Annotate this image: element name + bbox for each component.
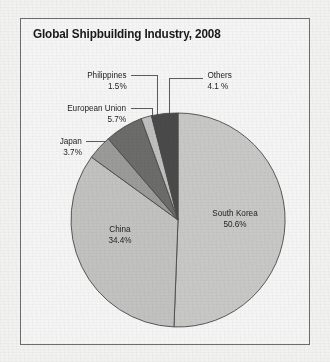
pie-label-china: China 34.4% [91, 224, 149, 245]
pie-label-south-korea: South Korea 50.6% [200, 208, 269, 229]
pie-label-others-name: Others [207, 70, 231, 80]
pie-chart [0, 0, 330, 362]
pie-label-european-union-value: 5.7% [38, 114, 126, 125]
pie-label-south-korea-value: 50.6% [200, 219, 269, 230]
chart-figure: Global Shipbuilding Industry, 2008 [0, 0, 330, 362]
pie-label-philippines: Philippines 1.5% [61, 70, 126, 91]
pie-label-philippines-value: 1.5% [61, 81, 126, 92]
pie-label-japan-name: Japan [60, 136, 82, 146]
pie-label-european-union-name: European Union [67, 103, 126, 113]
pie-label-china-name: China [109, 224, 130, 234]
pie-label-japan-value: 3.7% [29, 147, 82, 158]
leader-line-others [169, 78, 203, 116]
pie-label-japan: Japan 3.7% [29, 136, 82, 157]
leader-line-philippines [131, 75, 157, 119]
pie-label-south-korea-name: South Korea [212, 208, 257, 218]
pie-label-china-value: 34.4% [91, 235, 149, 246]
pie-label-others: Others 4.1 % [207, 70, 274, 91]
pie-label-european-union: European Union 5.7% [38, 103, 126, 124]
pie-label-philippines-name: Philippines [87, 70, 126, 80]
pie-label-others-value: 4.1 % [207, 81, 274, 92]
